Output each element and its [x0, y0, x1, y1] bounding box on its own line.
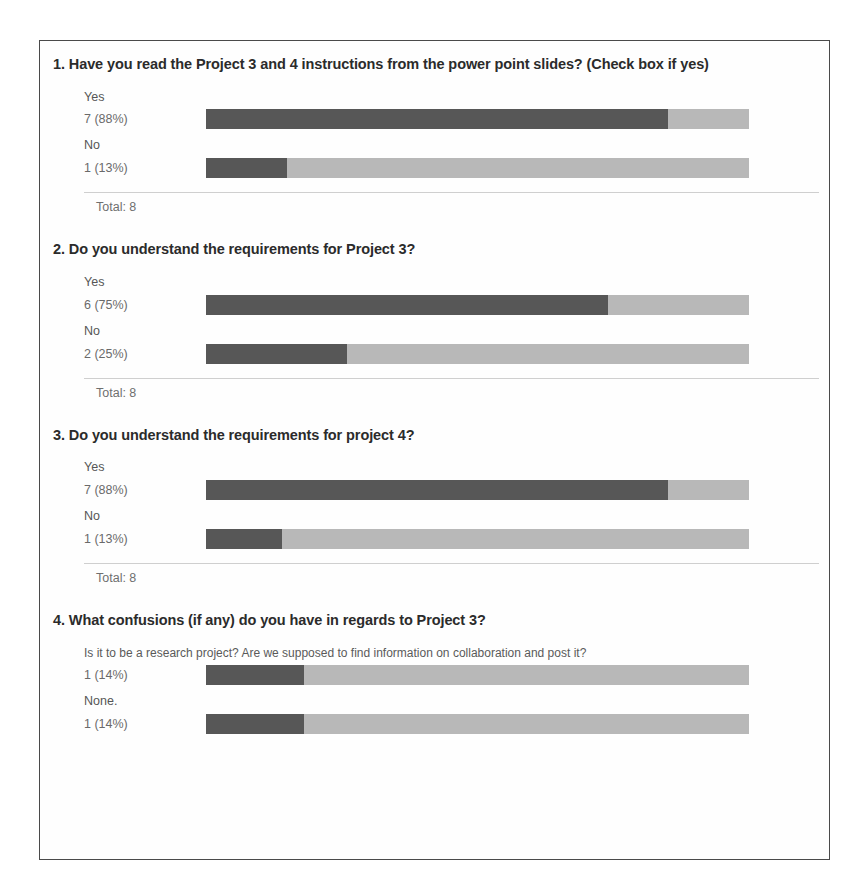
answer-value: 6 (75%)	[84, 298, 204, 312]
answers-list-1: Yes 7 (88%) No 1 (13%)	[40, 79, 829, 227]
answer-value: 1 (14%)	[84, 668, 204, 682]
answer-label: Is it to be a research project? Are we s…	[40, 645, 829, 663]
answer-value: 2 (25%)	[84, 347, 204, 361]
question-title-2: 2. Do you understand the requirements fo…	[40, 226, 829, 264]
answer-label: Yes	[40, 274, 829, 293]
answers-list-3: Yes 7 (88%) No 1 (13%)	[40, 449, 829, 597]
question-block-3: 3. Do you understand the requirements fo…	[40, 412, 829, 597]
answer-bar-track	[206, 665, 749, 685]
answer-row: Is it to be a research project? Are we s…	[40, 645, 829, 693]
answer-meter: 1 (14%)	[40, 712, 829, 738]
answer-meter: 1 (14%)	[40, 663, 829, 689]
answer-value: 7 (88%)	[84, 112, 204, 126]
question-title-3: 3. Do you understand the requirements fo…	[40, 412, 829, 450]
answer-bar-track	[206, 529, 749, 549]
answer-label: No	[40, 323, 829, 342]
question-block-2: 2. Do you understand the requirements fo…	[40, 226, 829, 411]
answer-bar-fill	[206, 714, 304, 734]
answer-row: No 1 (13%)	[40, 137, 829, 186]
survey-results-frame: 1. Have you read the Project 3 and 4 ins…	[39, 40, 830, 860]
answer-label: No	[40, 508, 829, 527]
answer-row: Yes 7 (88%)	[40, 459, 829, 508]
answer-meter: 6 (75%)	[40, 293, 829, 319]
answer-meter: 7 (88%)	[40, 478, 829, 504]
answer-value: 7 (88%)	[84, 483, 204, 497]
question-total: Total: 8	[40, 193, 829, 226]
answer-bar-fill	[206, 665, 304, 685]
answer-meter: 1 (13%)	[40, 527, 829, 553]
answer-bar-fill	[206, 529, 282, 549]
survey-scroll-area[interactable]: 1. Have you read the Project 3 and 4 ins…	[40, 41, 829, 859]
answer-meter: 7 (88%)	[40, 107, 829, 133]
answer-label: No	[40, 137, 829, 156]
answer-row: Yes 6 (75%)	[40, 274, 829, 323]
answer-row: No 1 (13%)	[40, 508, 829, 557]
answer-bar-track	[206, 344, 749, 364]
answer-meter: 1 (13%)	[40, 156, 829, 182]
answer-row: None. 1 (14%)	[40, 693, 829, 742]
answer-meter: 2 (25%)	[40, 342, 829, 368]
answer-bar-fill	[206, 295, 608, 315]
question-block-4: 4. What confusions (if any) do you have …	[40, 597, 829, 742]
answer-label: Yes	[40, 459, 829, 478]
answer-bar-fill	[206, 158, 287, 178]
answer-bar-track	[206, 158, 749, 178]
question-title-1: 1. Have you read the Project 3 and 4 ins…	[40, 41, 829, 79]
answers-list-4: Is it to be a research project? Are we s…	[40, 635, 829, 742]
answer-value: 1 (14%)	[84, 717, 204, 731]
answer-value: 1 (13%)	[84, 161, 204, 175]
answer-bar-track	[206, 480, 749, 500]
answer-label: Yes	[40, 89, 829, 108]
answer-bar-track	[206, 295, 749, 315]
answer-row: No 2 (25%)	[40, 323, 829, 372]
answer-label: None.	[40, 693, 829, 712]
answer-bar-fill	[206, 344, 347, 364]
answer-value: 1 (13%)	[84, 532, 204, 546]
answer-row: Yes 7 (88%)	[40, 89, 829, 138]
answer-bar-track	[206, 109, 749, 129]
answer-bar-fill	[206, 480, 668, 500]
answer-bar-fill	[206, 109, 668, 129]
question-title-4: 4. What confusions (if any) do you have …	[40, 597, 829, 635]
answer-bar-track	[206, 714, 749, 734]
question-total: Total: 8	[40, 379, 829, 412]
answers-list-2: Yes 6 (75%) No 2 (25%)	[40, 264, 829, 412]
question-total: Total: 8	[40, 564, 829, 597]
question-block-1: 1. Have you read the Project 3 and 4 ins…	[40, 41, 829, 226]
